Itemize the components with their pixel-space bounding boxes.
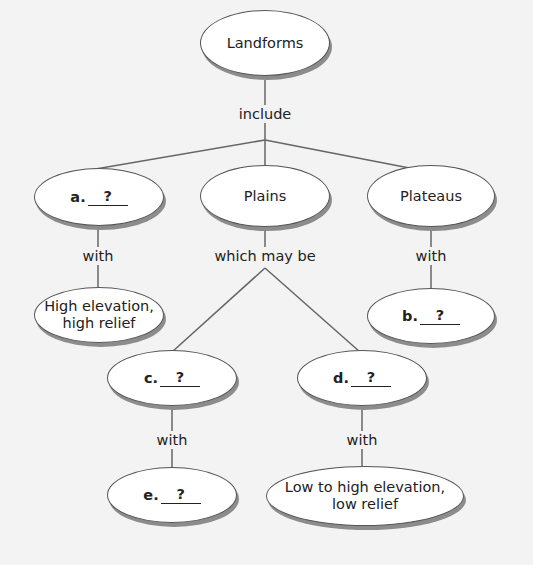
node-b-blank: b. ? (367, 288, 495, 344)
node-label-line1: Low to high elevation, (285, 479, 445, 495)
link-label-which-may-be: which may be (211, 247, 318, 265)
link-label-with-plateaus: with (413, 247, 450, 265)
link-label-with-d: with (344, 431, 381, 449)
node-label-line1: High elevation, (44, 298, 154, 314)
node-e-blank: e. ? (107, 467, 237, 523)
node-label: Plateaus (400, 188, 462, 205)
blank-letter: c. (144, 370, 158, 387)
blank-letter: e. (143, 487, 158, 504)
node-label: Landforms (227, 35, 304, 52)
node-c-blank: c. ? (107, 350, 237, 406)
link-label-with-c: with (154, 431, 191, 449)
node-a-blank: a. ? (34, 168, 164, 226)
node-label: Plains (244, 188, 286, 205)
link-label-include: include (236, 105, 295, 123)
blank-letter: a. (70, 189, 85, 206)
blank-answer: ? (161, 486, 201, 504)
node-landforms: Landforms (200, 10, 330, 76)
blank-letter: d. (333, 370, 349, 387)
blank-answer: ? (351, 369, 391, 387)
node-low-to-high-elevation-low-relief: Low to high elevation, low relief (266, 466, 464, 526)
connector-lines (0, 0, 533, 565)
blank-answer: ? (420, 307, 460, 325)
blank-letter: b. (402, 308, 418, 325)
blank-answer: ? (160, 369, 200, 387)
node-plateaus: Plateaus (367, 165, 495, 227)
node-label-line2: high relief (63, 315, 136, 331)
node-label-line2: low relief (332, 496, 398, 512)
node-high-elevation-high-relief: High elevation, high relief (34, 287, 164, 343)
node-plains: Plains (200, 165, 330, 227)
node-d-blank: d. ? (297, 350, 427, 406)
blank-answer: ? (88, 188, 128, 206)
link-label-with-a: with (80, 247, 117, 265)
